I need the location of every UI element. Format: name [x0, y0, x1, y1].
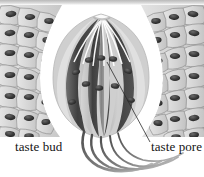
- taste-bud-figure: taste bud taste pore: [0, 0, 204, 177]
- label-taste-bud: taste bud: [15, 139, 62, 155]
- label-taste-pore: taste pore: [151, 139, 202, 155]
